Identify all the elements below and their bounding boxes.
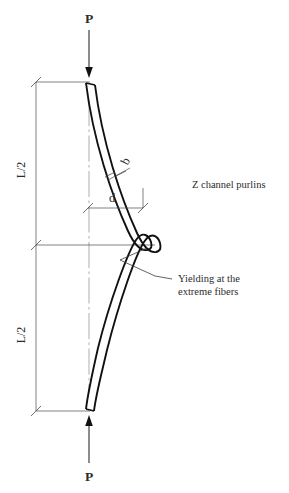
- dimension-tick-icon-flange-b: [116, 171, 126, 176]
- diagram-canvas: L/2 L/2 b d: [0, 0, 289, 493]
- force-arrow-top: [85, 30, 93, 78]
- yield-leader: [120, 248, 172, 279]
- force-arrow-bottom: [85, 415, 93, 463]
- yield-note-group: Yielding at the extreme fibers: [178, 273, 240, 297]
- force-label-top-group: P: [85, 11, 93, 26]
- half-span-label-upper: L/2: [14, 162, 28, 179]
- member-note-label: Z channel purlins: [192, 179, 265, 190]
- down-arrow-icon: [85, 67, 93, 78]
- half-span-label-lower: L/2: [14, 327, 28, 344]
- leader-line-icon-tail: [155, 276, 172, 279]
- force-label-top: P: [85, 11, 93, 26]
- yield-note-line-1: Yielding at the: [178, 273, 240, 284]
- flange-width-label: b: [118, 155, 133, 167]
- force-label-bottom: P: [85, 469, 93, 484]
- beam-end-cap-top: [86, 83, 95, 85]
- half-span-label-lower-group: L/2: [14, 327, 28, 344]
- member-note-group: Z channel purlins: [192, 179, 265, 190]
- half-span-label-upper-group: L/2: [14, 162, 28, 179]
- up-arrow-icon: [85, 415, 93, 426]
- leader-line-icon-v: [120, 248, 155, 276]
- depth-label: d: [109, 191, 116, 205]
- force-label-bottom-group: P: [85, 469, 93, 484]
- deflected-beam-member: [86, 83, 161, 411]
- technical-diagram-figure: L/2 L/2 b d: [0, 0, 289, 493]
- yield-note-line-2: extreme fibers: [178, 286, 238, 297]
